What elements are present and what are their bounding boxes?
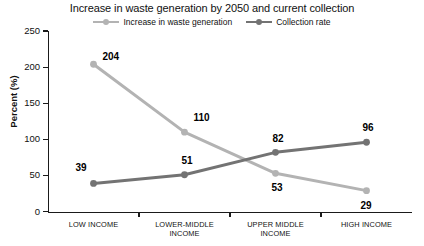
data-point-marker: [363, 139, 370, 146]
data-point-value-label: 204: [103, 52, 120, 62]
data-point-marker: [181, 171, 188, 178]
series-line-2: [94, 142, 367, 183]
waste-generation-line-chart: Increase in waste generation by 2050 and…: [0, 0, 424, 246]
data-point-value-label: 51: [182, 156, 193, 166]
data-point-marker: [363, 187, 370, 194]
data-point-marker: [272, 149, 279, 156]
data-point-value-label: 53: [272, 183, 283, 193]
data-point-value-label: 29: [361, 201, 372, 211]
series-line-1: [94, 64, 367, 190]
data-point-marker: [272, 170, 279, 177]
data-point-marker: [90, 61, 97, 68]
data-point-marker: [90, 180, 97, 187]
data-point-marker: [181, 129, 188, 136]
data-point-value-label: 110: [194, 113, 210, 123]
data-point-value-label: 96: [363, 123, 374, 133]
data-point-value-label: 39: [76, 163, 87, 173]
data-point-value-label: 82: [273, 134, 284, 144]
